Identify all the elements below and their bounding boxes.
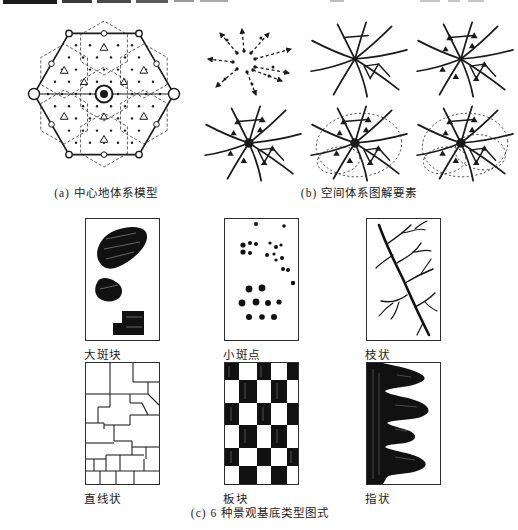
rectilinear-drawing — [86, 363, 159, 484]
document-page: (a) 中心地体系模型 — [0, 0, 518, 530]
fingers-drawing — [367, 363, 440, 484]
network-diagram-with-more-loops — [414, 102, 516, 184]
label-large-patches: 大斑块 — [84, 346, 122, 362]
figure-a-caption: (a) 中心地体系模型 — [22, 184, 190, 200]
branching-drawing — [367, 219, 440, 340]
small-dots-drawing — [225, 219, 298, 340]
network-diagram-with-center — [202, 102, 304, 184]
panel-checkerboard — [224, 362, 299, 485]
large-patches-drawing — [86, 219, 159, 340]
figure-b-caption: (b) 空间体系图解要素 — [200, 184, 518, 200]
central-place-model-figure — [20, 16, 188, 176]
network-diagram-dashed-arrows — [202, 24, 304, 104]
network-diagram-with-nodes — [414, 18, 516, 100]
network-diagram-skeleton — [308, 18, 410, 100]
panel-small-dots — [224, 218, 299, 341]
panel-fingers — [366, 362, 441, 485]
label-small-dots: 小斑点 — [223, 346, 261, 362]
panel-large-patches — [85, 218, 160, 341]
label-branching: 枝状 — [365, 346, 390, 362]
panel-rectilinear — [85, 362, 160, 485]
checkerboard-drawing — [225, 363, 298, 484]
panel-branching — [366, 218, 441, 341]
network-diagram-with-loops — [308, 102, 410, 184]
figure-c-caption: (c) 6 种景观基底类型图式 — [40, 504, 480, 520]
